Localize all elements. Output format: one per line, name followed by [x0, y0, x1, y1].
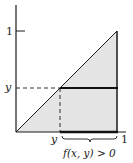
x-axis-label-y: y — [50, 133, 58, 146]
brace-icon — [62, 136, 117, 142]
x-axis-label-one: 1 — [121, 133, 128, 146]
support-region-diagram: 1 y y 1 f(x, y) > 0 — [0, 0, 133, 163]
y-axis-label-one: 1 — [6, 25, 13, 38]
brace-caption: f(x, y) > 0 — [62, 147, 116, 159]
y-axis-label-y: y — [4, 81, 12, 94]
